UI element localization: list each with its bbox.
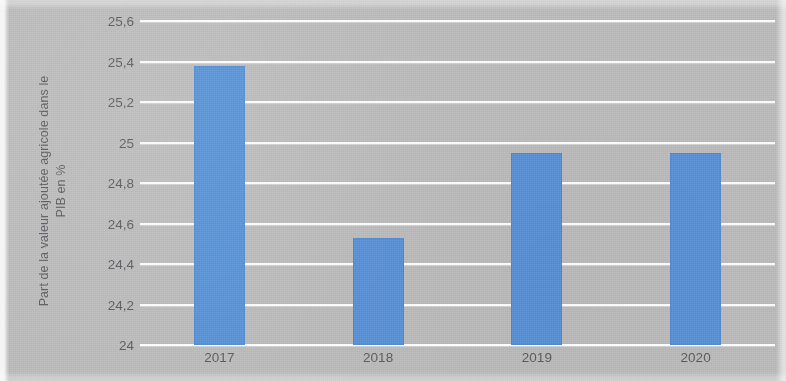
y-axis-tick-label: 24,2 <box>108 297 134 312</box>
bar <box>511 153 562 345</box>
bar <box>670 153 721 345</box>
y-axis-tick-label: 25 <box>119 135 134 150</box>
gridline <box>140 61 775 63</box>
y-axis-tick-label: 25,4 <box>108 54 134 69</box>
y-axis-tick-label: 24,4 <box>108 257 134 272</box>
x-axis-tick-label: 2018 <box>363 350 393 365</box>
gridline <box>140 20 775 22</box>
x-axis-tick-label: 2019 <box>522 350 552 365</box>
y-axis-tick-labels: 25,625,425,22524,824,624,424,224 <box>84 21 134 345</box>
x-axis-tick-label: 2017 <box>204 350 234 365</box>
y-axis-tick-label: 25,6 <box>108 14 134 29</box>
y-axis-tick-label: 24,6 <box>108 216 134 231</box>
y-axis-title: Part de la valeur ajoutée agricole dans … <box>16 0 90 381</box>
y-axis-tick-label: 24,8 <box>108 176 134 191</box>
bar <box>353 238 404 345</box>
y-axis-tick-label: 24 <box>119 338 134 353</box>
y-axis-title-line-2: PIB en % <box>53 75 70 306</box>
bar-chart-figure: Part de la valeur ajoutée agricole dans … <box>0 0 786 381</box>
y-axis-tick-label: 25,2 <box>108 95 134 110</box>
plot-area <box>140 21 775 345</box>
x-axis-tick-label: 2020 <box>681 350 711 365</box>
bar <box>194 66 245 345</box>
x-axis-tick-labels: 2017201820192020 <box>140 350 775 376</box>
y-axis-title-line-1: Part de la valeur ajoutée agricole dans … <box>36 75 53 306</box>
